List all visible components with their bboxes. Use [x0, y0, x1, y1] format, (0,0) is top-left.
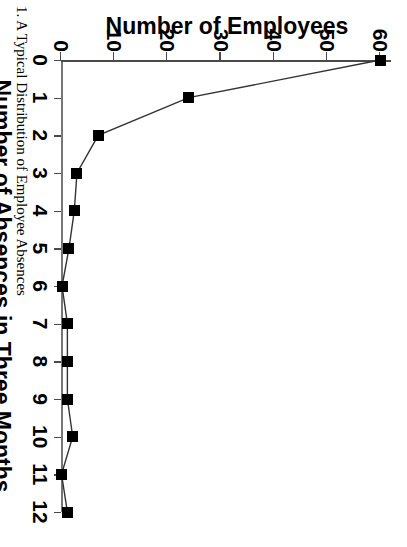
x-tick — [54, 361, 61, 362]
y-tick — [60, 52, 61, 60]
data-point — [375, 55, 386, 66]
y-tick — [113, 52, 114, 60]
data-point — [56, 469, 67, 480]
data-point — [63, 243, 74, 254]
series-line — [61, 60, 391, 512]
data-point — [183, 92, 194, 103]
data-point — [93, 130, 104, 141]
data-point — [67, 431, 78, 442]
x-tick — [54, 399, 61, 400]
data-point — [62, 507, 73, 518]
x-tick — [54, 437, 61, 438]
y-axis-label: Number of Employees — [47, 11, 407, 41]
x-tick — [54, 98, 61, 99]
y-tick — [166, 52, 167, 60]
data-point — [62, 356, 73, 367]
data-point — [57, 281, 68, 292]
chart-figure: 0123456789101112 0102030405060 Number of… — [0, 0, 407, 547]
data-point — [62, 318, 73, 329]
y-tick — [273, 52, 274, 60]
x-tick — [54, 211, 61, 212]
figure-caption-wrapper: 1. A Typical Distribution of Employee Ab… — [9, 6, 35, 546]
data-point — [62, 394, 73, 405]
y-tick — [326, 52, 327, 60]
figure-caption: 1. A Typical Distribution of Employee Ab… — [9, 6, 35, 546]
x-tick — [54, 324, 61, 325]
data-point — [71, 168, 82, 179]
plot-area: 0123456789101112 0102030405060 — [61, 60, 391, 512]
x-tick — [54, 248, 61, 249]
x-tick — [54, 60, 61, 61]
y-axis-label-wrapper: Number of Employees — [47, 11, 407, 41]
x-tick — [54, 173, 61, 174]
x-tick — [54, 135, 61, 136]
data-point — [69, 205, 80, 216]
x-tick — [54, 512, 61, 513]
rotated-figure-wrapper: 0123456789101112 0102030405060 Number of… — [0, 0, 407, 547]
y-tick — [219, 52, 220, 60]
